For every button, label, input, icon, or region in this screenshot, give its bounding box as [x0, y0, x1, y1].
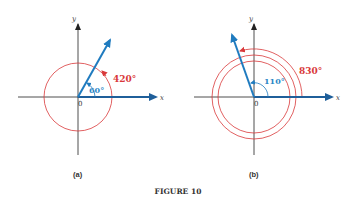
figure-caption: FIGURE 10 — [155, 187, 202, 196]
panel-b: y x 0 110° 830° (b) — [194, 15, 340, 179]
rotation-angle-label: 830° — [299, 66, 322, 76]
y-axis-label: y — [71, 15, 77, 23]
origin-label: 0 — [78, 100, 82, 108]
rotation-arc-outer — [240, 49, 302, 97]
x-axis-label: x — [160, 94, 164, 102]
reference-angle-label: 60° — [89, 85, 104, 95]
panel-label: (b) — [249, 170, 259, 179]
y-axis-label: y — [248, 15, 254, 23]
panel-a: y x 0 60° 420° (a) — [18, 15, 164, 179]
rotation-angle-label: 420° — [113, 74, 136, 84]
panel-label: (a) — [73, 170, 83, 179]
origin-label: 0 — [254, 100, 258, 108]
figure-10: y x 0 60° 420° (a) y x 0 110° 830° (b) F… — [0, 0, 356, 202]
x-axis-label: x — [336, 94, 340, 102]
reference-angle-label: 110° — [264, 76, 285, 86]
